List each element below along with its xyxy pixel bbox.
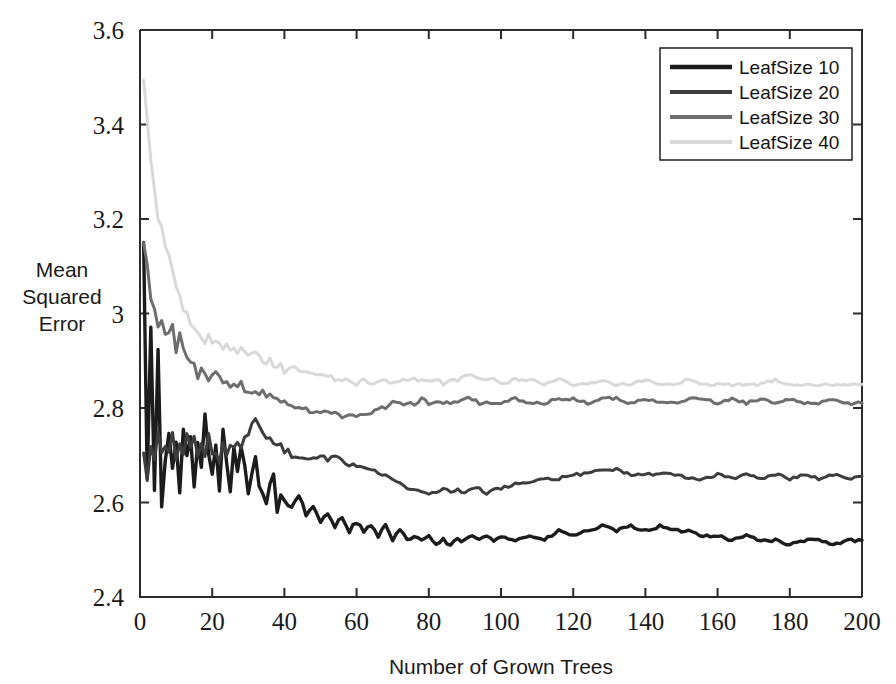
x-tick-label-40: 40 (272, 608, 297, 635)
legend-label-leafsize-10: LeafSize 10 (739, 57, 839, 78)
x-tick-label-140: 140 (627, 608, 665, 635)
chart-legend: LeafSize 10LeafSize 20LeafSize 30LeafSiz… (660, 48, 852, 160)
y-axis-title-line-3: Error (39, 312, 86, 335)
x-tick-label-160: 160 (699, 608, 737, 635)
y-tick-label-3.6: 3.6 (93, 17, 124, 44)
y-tick-label-3.2: 3.2 (93, 206, 124, 233)
x-tick-label-60: 60 (344, 608, 369, 635)
x-tick-label-180: 180 (771, 608, 809, 635)
legend-label-leafsize-40: LeafSize 40 (739, 132, 839, 153)
y-tick-label-2.8: 2.8 (93, 395, 124, 422)
mse-vs-trees-line-chart: 020406080100120140160180200 2.42.62.833.… (0, 0, 896, 684)
x-tick-label-80: 80 (416, 608, 441, 635)
x-axis-title-text: Number of Grown Trees (389, 655, 613, 678)
x-tick-label-20: 20 (200, 608, 225, 635)
x-tick-label-100: 100 (482, 608, 520, 635)
y-axis-title-line-2: Squared (22, 285, 101, 308)
y-tick-label-3: 3 (112, 301, 125, 328)
legend-label-leafsize-30: LeafSize 30 (739, 107, 839, 128)
y-tick-label-2.6: 2.6 (93, 490, 124, 517)
y-tick-label-3.4: 3.4 (93, 112, 125, 139)
y-axis-title-line-1: Mean (36, 258, 89, 281)
chart-figure: 020406080100120140160180200 2.42.62.833.… (0, 0, 896, 684)
x-tick-label-0: 0 (134, 608, 147, 635)
y-tick-label-2.4: 2.4 (93, 584, 125, 611)
x-tick-label-120: 120 (554, 608, 592, 635)
x-axis-title: Number of Grown Trees (389, 655, 613, 678)
x-tick-label-200: 200 (843, 608, 881, 635)
legend-label-leafsize-20: LeafSize 20 (739, 82, 839, 103)
